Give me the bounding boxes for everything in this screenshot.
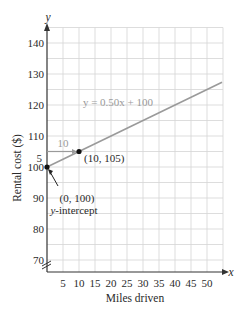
line-chart: 5101520253035404550708090100110120130140… bbox=[0, 0, 242, 318]
y-axis-label: Rental cost ($) bbox=[11, 134, 24, 202]
annotations: 105(0, 100)y-intercept(10, 105) bbox=[37, 137, 125, 217]
run-label: 10 bbox=[58, 137, 70, 149]
y-axis-arrow-icon bbox=[44, 23, 50, 31]
x-tick-label: 35 bbox=[154, 277, 166, 289]
series-line: y = 0.50x + 100 bbox=[47, 82, 222, 167]
x-tick-label: 5 bbox=[60, 277, 66, 289]
y-tick-label: 140 bbox=[28, 37, 45, 49]
x-tick-label: 50 bbox=[202, 277, 214, 289]
x-axis-symbol: x bbox=[227, 266, 234, 278]
y-tick-label: 70 bbox=[33, 254, 45, 266]
axes bbox=[42, 23, 229, 275]
x-tick-label: 30 bbox=[138, 277, 150, 289]
y-tick-label: 110 bbox=[28, 130, 45, 142]
rise-label: 5 bbox=[37, 152, 43, 164]
x-tick-label: 40 bbox=[170, 277, 182, 289]
y-tick-label: 130 bbox=[28, 68, 45, 80]
intercept-arrow-icon bbox=[48, 169, 53, 175]
y-axis-symbol: y bbox=[44, 11, 51, 24]
point-sublabel: y-intercept bbox=[49, 204, 97, 216]
data-point bbox=[76, 149, 81, 154]
x-tick-label: 45 bbox=[186, 277, 198, 289]
equation-label: y = 0.50x + 100 bbox=[83, 96, 154, 108]
x-tick-label: 25 bbox=[122, 277, 134, 289]
y-tick-label: 90 bbox=[33, 192, 45, 204]
x-tick-label: 15 bbox=[90, 277, 102, 289]
x-tick-label: 20 bbox=[106, 277, 118, 289]
y-tick-label: 80 bbox=[33, 223, 45, 235]
series-line bbox=[47, 82, 222, 167]
data-point bbox=[44, 164, 49, 169]
point-label: (10, 105) bbox=[84, 152, 125, 165]
y-tick-label: 120 bbox=[28, 99, 45, 111]
x-tick-label: 10 bbox=[74, 277, 86, 289]
x-axis-label: Miles driven bbox=[106, 292, 165, 304]
